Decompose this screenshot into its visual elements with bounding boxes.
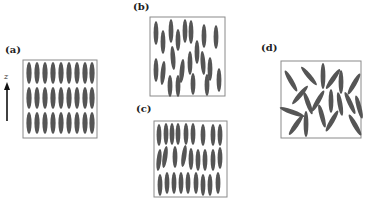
panel-a-rods: [26, 62, 94, 134]
z-arrow-icon: [4, 82, 10, 121]
diagram-canvas: [0, 0, 369, 208]
